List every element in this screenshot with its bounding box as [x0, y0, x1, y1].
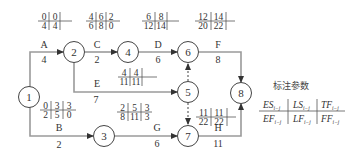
- C-LS: 6: [99, 12, 104, 22]
- G-ES: 2: [120, 103, 125, 113]
- E-LF: 11: [131, 77, 140, 87]
- node-1: 1: [19, 87, 40, 108]
- D-LS: 8: [159, 12, 164, 22]
- E-EF: 11: [119, 77, 128, 87]
- activity-F-duration: 8: [216, 54, 221, 65]
- activity-H-duration: 11: [213, 138, 223, 149]
- node-4-label: 4: [125, 46, 131, 58]
- activity-D-duration: 6: [156, 54, 161, 65]
- D-EF: 12: [144, 21, 154, 31]
- C-LF: 8: [99, 21, 104, 31]
- H-LF: 22: [214, 117, 224, 127]
- node-3: 3: [94, 126, 115, 147]
- H-ES: 11: [199, 108, 208, 118]
- activity-A-name: A: [40, 39, 48, 50]
- B-EF: 2: [43, 110, 48, 120]
- D-LF: 14: [156, 21, 166, 31]
- legend: 标注参数 ESi−j LSi−j TFi−j EFi−j LFi−j FFi−j: [259, 80, 345, 125]
- network-diagram: 1 2 3 4 5 6 7 8: [0, 0, 360, 158]
- legend-FF: FFi−j: [320, 114, 340, 125]
- legend-ES: ESi−j: [262, 100, 281, 111]
- C-TF: 2: [109, 12, 114, 22]
- activity-E-name: E: [94, 78, 100, 89]
- activity-B-name: B: [56, 122, 63, 133]
- F-ES: 12: [198, 12, 208, 22]
- A-ES: 0: [42, 12, 47, 22]
- activity-G-duration: 6: [155, 138, 160, 149]
- E-LS: 4: [134, 68, 139, 78]
- B-ES: 0: [43, 101, 48, 111]
- node-8-label: 8: [238, 87, 244, 99]
- node-8: 8: [231, 83, 252, 104]
- E-ES: 4: [122, 68, 127, 78]
- C-ES: 4: [89, 12, 94, 22]
- G-EF: 8: [120, 112, 125, 122]
- legend-title: 标注参数: [273, 80, 309, 91]
- F-EF: 20: [198, 21, 208, 31]
- B-TF: 3: [67, 101, 72, 111]
- node-3-label: 3: [101, 130, 107, 142]
- legend-EF: EFi−j: [262, 114, 282, 125]
- time-parameters: 0 0 4 4 4 6 2 6 8 0 6 8 12 14 12: [38, 12, 236, 128]
- G-FF: 3: [145, 112, 150, 122]
- activity-G-name: G: [153, 122, 160, 133]
- node-7: 7: [178, 126, 199, 147]
- C-EF: 6: [89, 21, 94, 31]
- activity-C-duration: 2: [95, 54, 100, 65]
- activity-C-name: C: [94, 39, 101, 50]
- node-6-label: 6: [185, 46, 191, 58]
- node-2-label: 2: [71, 46, 77, 58]
- legend-TF: TFi−j: [321, 100, 339, 111]
- A-LS: 0: [53, 12, 58, 22]
- A-LF: 4: [53, 21, 58, 31]
- G-TF: 3: [145, 103, 150, 113]
- node-5: 5: [178, 82, 199, 103]
- node-2: 2: [64, 42, 85, 63]
- node-7-label: 7: [185, 130, 191, 142]
- node-6: 6: [178, 42, 199, 63]
- activity-E-duration: 7: [94, 94, 99, 105]
- node-5-label: 5: [185, 86, 191, 98]
- B-LF: 5: [55, 110, 60, 120]
- B-LS: 3: [55, 101, 60, 111]
- activity-A-duration: 4: [42, 54, 47, 65]
- F-LS: 14: [214, 12, 224, 22]
- legend-LF: LFi−j: [292, 114, 311, 125]
- H-LS: 11: [214, 108, 223, 118]
- activity-F-name: F: [215, 39, 221, 50]
- activity-B-duration: 2: [57, 139, 62, 150]
- arrow-A: [30, 52, 63, 87]
- D-ES: 6: [146, 12, 151, 22]
- activity-D-name: D: [154, 39, 161, 50]
- node-1-label: 1: [26, 91, 32, 103]
- H-EF: 22: [199, 117, 209, 127]
- node-4: 4: [118, 42, 139, 63]
- legend-LS: LSi−j: [292, 100, 310, 111]
- G-LF: 11: [130, 112, 139, 122]
- C-FF: 0: [109, 21, 114, 31]
- G-LS: 5: [132, 103, 137, 113]
- A-EF: 4: [42, 21, 47, 31]
- F-LF: 22: [214, 21, 224, 31]
- B-FF: 0: [67, 110, 72, 120]
